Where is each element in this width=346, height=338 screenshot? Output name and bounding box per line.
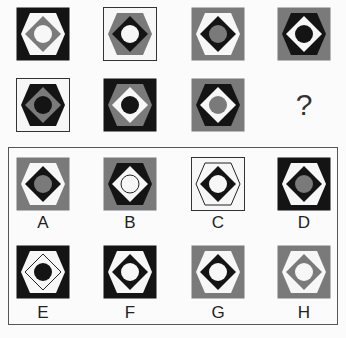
option-tile-d[interactable] xyxy=(277,157,331,211)
circle-shape xyxy=(121,263,139,281)
option-label-a: A xyxy=(16,213,70,233)
option-tile-f[interactable] xyxy=(103,245,157,299)
option-tile-g[interactable] xyxy=(191,245,245,299)
option-tile-e[interactable] xyxy=(16,245,70,299)
option-label-f: F xyxy=(103,303,157,323)
sequence-tile-3 xyxy=(191,7,245,61)
option-label-d: D xyxy=(277,213,331,233)
circle-shape xyxy=(209,25,227,43)
circle-shape xyxy=(34,175,52,193)
option-tile-a[interactable] xyxy=(16,157,70,211)
option-label-e: E xyxy=(16,303,70,323)
option-label-b: B xyxy=(103,213,157,233)
circle-shape xyxy=(295,25,313,43)
circle-shape xyxy=(121,25,139,43)
sequence-tile-2 xyxy=(103,7,157,61)
option-tile-b[interactable] xyxy=(103,157,157,211)
option-tile-h[interactable] xyxy=(277,245,331,299)
option-label-c: C xyxy=(191,213,245,233)
circle-shape xyxy=(209,96,227,114)
option-label-g: G xyxy=(191,303,245,323)
sequence-tile-5 xyxy=(16,78,70,132)
circle-shape xyxy=(209,263,227,281)
option-label-h: H xyxy=(277,303,331,323)
option-tile-c[interactable] xyxy=(191,157,245,211)
circle-shape xyxy=(34,263,52,281)
sequence-tile-7 xyxy=(191,78,245,132)
circle-shape xyxy=(295,175,313,193)
circle-shape xyxy=(121,175,139,193)
circle-shape xyxy=(34,25,52,43)
sequence-tile-6 xyxy=(103,78,157,132)
circle-shape xyxy=(34,96,52,114)
circle-shape xyxy=(121,96,139,114)
circle-shape xyxy=(295,263,313,281)
circle-shape xyxy=(209,175,227,193)
sequence-tile-4 xyxy=(277,7,331,61)
sequence-tile-1 xyxy=(16,7,70,61)
missing-tile-question-mark: ? xyxy=(277,78,331,132)
